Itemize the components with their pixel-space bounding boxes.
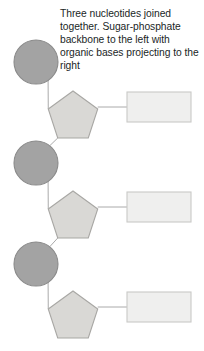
organic-base-1: organic base — [127, 92, 191, 122]
phosphate-group-3: phosphate group — [14, 242, 58, 286]
phosphate-group-2: phosphate group — [14, 141, 58, 185]
nucleotide-diagram-page: Three nucleotides joined together. Sugar… — [0, 0, 204, 351]
sugar-ring-1: sugar (pentose) ring — [48, 91, 97, 138]
organic-base-2: organic base — [127, 192, 191, 222]
nucleotide-chain-diagram: organic basesugar (pentose) ringphosphat… — [0, 0, 204, 351]
backbone-link-sugar-to-phosphate-1 — [50, 138, 58, 146]
organic-base-3: organic base — [127, 292, 191, 322]
sugar-ring-3: sugar (pentose) ring — [48, 291, 97, 338]
sugar-ring-2: sugar (pentose) ring — [48, 191, 97, 238]
phosphate-group-1: phosphate group — [14, 40, 58, 84]
backbone-link-sugar-to-phosphate-2 — [50, 238, 58, 247]
